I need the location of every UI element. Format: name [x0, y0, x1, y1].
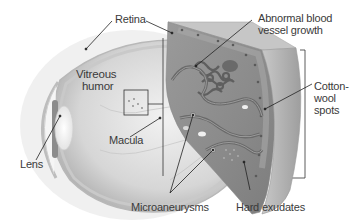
label-lens: Lens [20, 158, 43, 170]
label-abnormal-blood-vessel-growth: Abnormal blood vessel growth [258, 12, 332, 36]
diagram-canvas: Retina Vitreous humor Lens Macula Abnorm… [0, 0, 356, 222]
label-cotton-line1: Cotton- [314, 80, 349, 92]
label-retina: Retina [115, 13, 146, 25]
label-cotton-line2: wool [314, 92, 349, 104]
label-vitreous-humor-line2: humor [76, 80, 116, 92]
label-vitreous-humor-line1: Vitreous [76, 68, 116, 80]
label-microaneurysms: Microaneurysms [131, 201, 209, 213]
label-vitreous-humor: Vitreous humor [76, 68, 116, 92]
label-cotton-wool-spots: Cotton- wool spots [314, 80, 349, 116]
label-abnormal-line1: Abnormal blood [258, 12, 332, 24]
label-cotton-line3: spots [314, 104, 349, 116]
label-hard-exudates: Hard exudates [236, 201, 305, 213]
label-macula: Macula [109, 134, 143, 146]
label-abnormal-line2: vessel growth [258, 24, 332, 36]
